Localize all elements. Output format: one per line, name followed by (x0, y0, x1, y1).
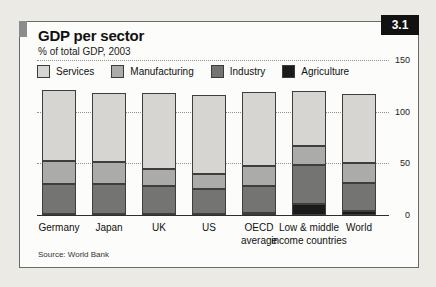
legend-label: Industry (230, 66, 266, 77)
chart-subtitle: % of total GDP, 2003 (38, 46, 131, 57)
plot-area: 050100150GermanyJapanUKUSOECDaverageLow … (37, 60, 389, 215)
legend-swatch-icon (111, 65, 124, 78)
legend-label: Agriculture (301, 66, 349, 77)
bar-segment-industry (42, 184, 76, 214)
bar-segment-manufacturing (242, 166, 276, 186)
bar-segment-manufacturing (292, 146, 326, 166)
legend-swatch-icon (211, 65, 224, 78)
bar-segment-industry (192, 189, 226, 214)
bar-segment-industry (92, 184, 126, 214)
bar (242, 92, 276, 215)
bar-segment-services (342, 94, 376, 163)
bar-segment-services (92, 93, 126, 162)
legend-swatch-icon (37, 65, 50, 78)
bar-segment-agriculture (242, 213, 276, 215)
legend-item-manufacturing: Manufacturing (111, 65, 193, 78)
bar (192, 95, 226, 215)
x-axis-line (37, 215, 389, 216)
legend: ServicesManufacturingIndustryAgriculture (37, 65, 366, 78)
bar-segment-services (192, 95, 226, 174)
bar (142, 93, 176, 215)
legend-label: Manufacturing (130, 66, 193, 77)
bar (342, 94, 376, 215)
bar (42, 90, 76, 215)
bar-segment-services (242, 92, 276, 166)
corner-accent-tab (19, 21, 27, 37)
bar-segment-manufacturing (42, 161, 76, 184)
legend-swatch-icon (282, 65, 295, 78)
bar (92, 93, 126, 215)
legend-item-agriculture: Agriculture (282, 65, 349, 78)
bar-segment-industry (142, 186, 176, 214)
legend-label: Services (56, 66, 94, 77)
bar-segment-agriculture (292, 204, 326, 215)
chart-card: GDP per sector % of total GDP, 2003 3.1 … (19, 21, 419, 268)
category-label: World (319, 222, 399, 235)
bar-segment-manufacturing (142, 169, 176, 187)
gridline (37, 60, 389, 61)
bar-segment-services (142, 93, 176, 168)
chart-title: GDP per sector (38, 27, 144, 44)
y-tick-label: 0 (392, 211, 410, 220)
y-tick-label: 150 (392, 56, 410, 65)
bar-segment-industry (342, 183, 376, 211)
bar-segment-manufacturing (192, 174, 226, 190)
legend-item-services: Services (37, 65, 94, 78)
bar-segment-industry (292, 165, 326, 203)
bar (292, 91, 326, 215)
bar-segment-services (42, 90, 76, 161)
figure-number-badge: 3.1 (381, 15, 419, 35)
bar-segment-manufacturing (92, 162, 126, 184)
bar-segment-services (292, 91, 326, 146)
legend-item-industry: Industry (211, 65, 266, 78)
bar-segment-manufacturing (342, 163, 376, 183)
bar-segment-industry (242, 186, 276, 213)
bar-segment-agriculture (342, 211, 376, 215)
y-tick-label: 50 (392, 159, 410, 168)
source-note: Source: World Bank (38, 250, 109, 259)
y-tick-label: 100 (392, 108, 410, 117)
